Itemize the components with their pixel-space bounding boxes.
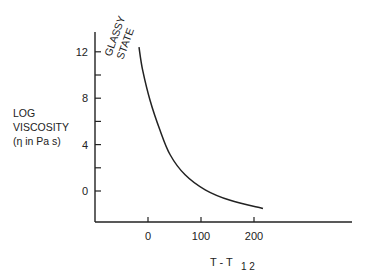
y-axis-label: LOG VISCOSITY (η in Pa s) bbox=[13, 107, 69, 147]
y-tick-label: 8 bbox=[82, 92, 88, 104]
axes bbox=[95, 32, 352, 222]
y-tick-label: 4 bbox=[82, 139, 88, 151]
glassy-state-annotation: GLASSY STATE bbox=[102, 14, 136, 61]
viscosity-curve bbox=[139, 47, 263, 208]
xlabel-subscript: 1 2 bbox=[241, 261, 255, 272]
x-tick-label: 100 bbox=[192, 230, 210, 242]
ylabel-line-3: (η in Pa s) bbox=[13, 135, 61, 147]
x-tick-label: 0 bbox=[145, 230, 151, 242]
x-tick-label: 200 bbox=[245, 230, 263, 242]
xlabel-main: T - T bbox=[210, 256, 233, 268]
viscosity-chart: 04812 0100200 LOG VISCOSITY (η in Pa s) … bbox=[0, 0, 370, 277]
y-tick-label: 12 bbox=[76, 46, 88, 58]
ylabel-line-1: LOG bbox=[13, 107, 35, 119]
ylabel-line-2: VISCOSITY bbox=[13, 121, 69, 133]
y-tick-label: 0 bbox=[82, 185, 88, 197]
x-axis-label: T - T 1 2 bbox=[210, 256, 255, 272]
x-ticks: 0100200 bbox=[145, 217, 263, 242]
y-ticks: 04812 bbox=[76, 46, 101, 197]
